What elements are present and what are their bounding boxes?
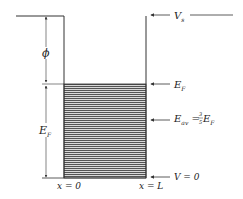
svg-text:5: 5 [199, 119, 202, 125]
fermi-level-label: EF [173, 79, 186, 92]
svg-text:EF: EF [202, 113, 215, 126]
vacuum-level-label: Vs [174, 10, 184, 23]
potential-well-diagram: ϕ EF Vs EF Eav = 3 5 EF V = 0 x = 0 x = … [0, 0, 243, 199]
average-energy-label: Eav = 3 5 EF [173, 111, 215, 126]
right-position-label: x = L [139, 181, 163, 191]
svg-text:3: 3 [199, 111, 202, 117]
left-position-label: x = 0 [57, 181, 81, 191]
filled-states-region [64, 84, 146, 178]
well-outline-left [16, 16, 64, 178]
svg-text:Eav =: Eav = [173, 113, 200, 126]
zero-potential-label: V = 0 [174, 172, 200, 182]
work-function-label: ϕ [42, 47, 50, 60]
